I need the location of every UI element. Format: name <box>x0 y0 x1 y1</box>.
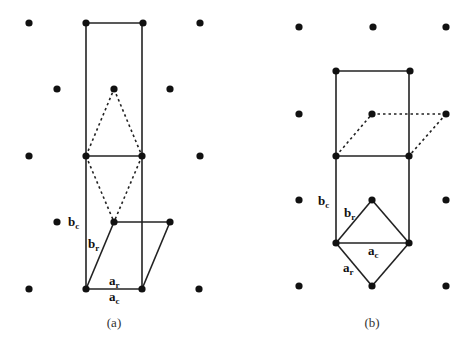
panel-b: bc br ac ar (b) <box>295 23 449 330</box>
panel-a: bc br ar ac (a) <box>25 19 203 330</box>
panel-a-reduced-cell <box>86 222 170 289</box>
label-a-bc: bc <box>68 214 79 231</box>
label-a-ar: ar <box>109 273 120 290</box>
figure-canvas: bc br ar ac (a) <box>0 0 473 346</box>
caption-a: (a) <box>107 315 121 330</box>
label-a-ac: ac <box>109 289 120 306</box>
label-a-br: br <box>88 236 99 253</box>
panel-b-dashed-parallelogram <box>336 114 446 156</box>
caption-b: (b) <box>364 315 379 330</box>
label-b-ac: ac <box>368 243 379 260</box>
label-b-br: br <box>344 205 355 222</box>
label-b-bc: bc <box>318 193 329 210</box>
